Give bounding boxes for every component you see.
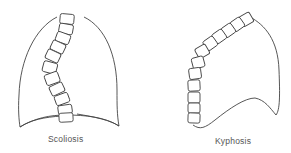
scoliosis-figure [19, 13, 119, 127]
scoliosis-thorax-right-outline [77, 17, 119, 126]
kyphosis-vertebrae [188, 12, 254, 124]
spinal-curvature-diagram [0, 0, 291, 153]
kyphosis-back-outline [250, 17, 280, 115]
kyphosis-base-outline [193, 98, 276, 128]
kyphosis-label: Kyphosis [215, 136, 251, 146]
kyphosis-figure [188, 12, 280, 128]
scoliosis-label: Scoliosis [48, 134, 83, 144]
scoliosis-vertebrae [42, 13, 75, 122]
